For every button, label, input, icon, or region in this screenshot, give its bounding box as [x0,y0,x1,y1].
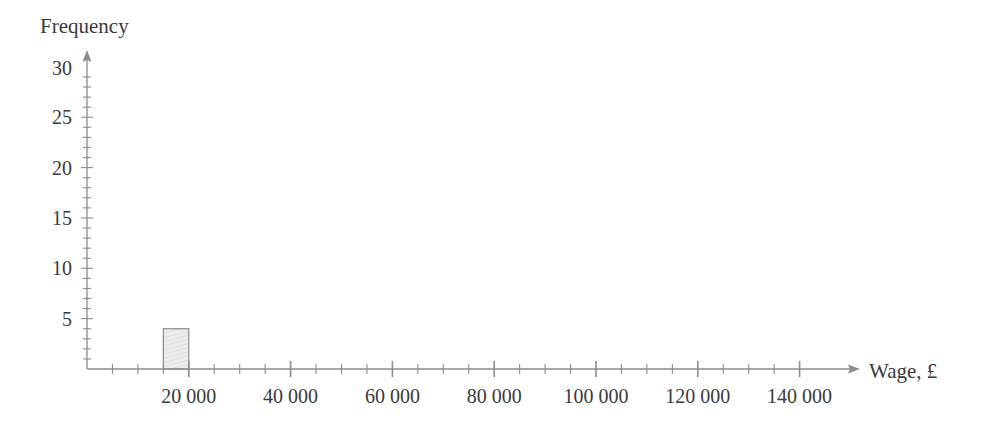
x-tick-label: 60 000 [365,385,420,407]
x-tick-label: 80 000 [467,385,522,407]
y-tick-label: 5 [62,308,72,330]
y-tick-label: 25 [52,106,72,128]
y-tick-labels: 51015202530 [52,57,72,330]
histogram-bars [163,329,188,369]
y-tick-label: 10 [52,257,72,279]
x-tick-label: 100 000 [564,385,629,407]
x-tick-label: 140 000 [767,385,832,407]
axes [81,50,860,377]
x-tick-labels: 20 00040 00060 00080 000100 000120 00014… [161,385,832,407]
histogram-chart: Frequency Wage, £ 20 00040 00060 00080 0… [0,0,985,432]
x-tick-label: 120 000 [665,385,730,407]
y-axis-label: Frequency [40,14,129,38]
y-tick-label: 30 [52,57,72,79]
x-axis-label: Wage, £ [869,359,937,383]
x-tick-label: 20 000 [161,385,216,407]
y-tick-label: 15 [52,207,72,229]
histogram-bar-0 [163,329,188,369]
x-tick-label: 40 000 [263,385,318,407]
y-tick-label: 20 [52,157,72,179]
